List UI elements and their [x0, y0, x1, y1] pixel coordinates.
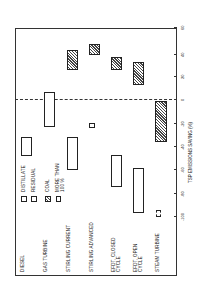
axis-tick: [174, 169, 177, 170]
zero-line: [15, 99, 177, 100]
bar-steam-turbine-coal: [155, 101, 167, 142]
tick-label: -20: [180, 121, 185, 127]
tick-label: -100: [180, 213, 185, 221]
axis-tick: [174, 99, 177, 100]
legend-label-coal: COAL: [45, 179, 50, 192]
axis-tick: [174, 146, 177, 147]
bar-efdt-open-distillate: [133, 168, 144, 213]
category-label-gas-turbine: GAS TURBINE: [43, 239, 48, 272]
bar-diesel-distillate: [21, 137, 32, 156]
bar-efdt-open-coal: [133, 62, 144, 85]
legend-label-more-than-100: MORE THAN 100 %: [55, 163, 65, 192]
tick-label: 40: [180, 53, 185, 57]
bar-gas-turbine-distillate: [44, 92, 55, 127]
axis-tick: [174, 216, 177, 217]
category-label-efdt-closed: EFDT, CLOSED CYCLE: [111, 237, 121, 272]
category-label-steam-turbine: STEAM TURBINE: [155, 233, 160, 272]
category-label-stirling-current: STIRLING CURRENT: [66, 225, 71, 272]
category-label-efdt-open: EFDT, OPEN CYCLE: [133, 243, 143, 272]
category-label-diesel: DIESEL: [20, 255, 25, 272]
bar-stirling-current-distillate: [67, 137, 78, 170]
axis-tick: [174, 76, 177, 77]
axis-tick: [174, 193, 177, 194]
legend-swatch-residual: [31, 196, 37, 202]
bar-stirling-advanced-distillate: [89, 123, 95, 128]
bar-steam-turbine-more-than-100: [156, 210, 161, 217]
plot-frame: [15, 28, 177, 276]
tick-label: 0: [180, 99, 185, 101]
axis-tick: [174, 54, 177, 55]
legend-swatch-coal: [45, 196, 51, 202]
tick-label: 20: [180, 75, 185, 79]
bar-stirling-advanced-coal: [89, 44, 100, 55]
axis-title: TSP EMISSIONS SAVING (%): [188, 122, 193, 183]
bar-efdt-closed-distillate: [111, 155, 122, 187]
axis-tick: [174, 27, 177, 28]
tick-label: -40: [180, 144, 185, 150]
bar-stirling-current-coal: [67, 50, 78, 70]
tick-label: -80: [180, 191, 185, 197]
legend-label-distillate: DISTILLATE: [21, 165, 26, 192]
legend-swatch-distillate: [21, 196, 27, 202]
axis-tick: [174, 123, 177, 124]
category-label-stirling-advanced: STIRLING ADVANCED: [89, 222, 94, 272]
tick-label: -60: [180, 167, 185, 173]
legend-label-residual: RESIDUAL: [31, 168, 36, 192]
chart: DIESEL GAS TURBINE STIRLING CURRENT STIR…: [0, 0, 205, 296]
tick-label: 60: [180, 26, 185, 30]
legend-swatch-more-than-100: [56, 196, 61, 202]
bar-efdt-closed-coal: [111, 57, 122, 70]
